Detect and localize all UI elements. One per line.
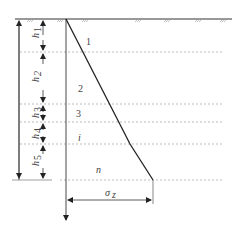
svg-text:h: h xyxy=(30,33,41,38)
layer-label-2: 2 xyxy=(78,83,83,94)
svg-text:σ: σ xyxy=(105,187,111,198)
layer-label-i: i xyxy=(78,132,81,143)
ground-surface xyxy=(15,19,232,22)
svg-text:3: 3 xyxy=(32,107,43,112)
layer-boundaries xyxy=(20,52,222,180)
h2-label: h2 xyxy=(30,71,43,82)
sigma-z-label: σ z xyxy=(105,187,116,200)
svg-text:z: z xyxy=(111,189,116,200)
h4-label: h4 xyxy=(30,128,43,139)
svg-text:h: h xyxy=(30,77,41,82)
svg-text:5: 5 xyxy=(32,155,43,160)
svg-text:h: h xyxy=(30,113,41,118)
svg-text:1: 1 xyxy=(32,27,43,32)
svg-text:4: 4 xyxy=(32,128,43,133)
svg-text:2: 2 xyxy=(32,71,43,76)
layer-label-3: 3 xyxy=(76,108,81,119)
stress-diagram: 1 2 3 i n h1 h2 h3 h4 h5 σ z xyxy=(0,0,240,229)
layer-label-1: 1 xyxy=(86,36,91,47)
h3-label: h3 xyxy=(30,107,43,118)
stress-curve xyxy=(66,19,153,180)
svg-text:h: h xyxy=(30,161,41,166)
layer-label-n: n xyxy=(96,164,101,175)
h1-label: h1 xyxy=(30,27,43,38)
h5-label: h5 xyxy=(30,155,43,166)
svg-text:h: h xyxy=(30,134,41,139)
